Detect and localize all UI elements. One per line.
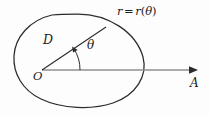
axis-arrow-head-icon [189, 66, 198, 74]
angle-label: θ [87, 39, 94, 51]
curve-equation-equals: = [123, 4, 136, 18]
curve-equation-close-paren: ) [152, 4, 157, 18]
origin-label: O [33, 71, 42, 83]
angle-arc [74, 49, 80, 70]
polar-curve-figure: r=r(θ) D θ O A [0, 0, 210, 116]
curve-equation-label: r=r(θ) [117, 6, 157, 18]
radius-segment-label: D [43, 34, 53, 47]
curve-equation-r: r [117, 4, 123, 18]
figure-drawing-canvas [0, 0, 210, 116]
axis-endpoint-label: A [190, 77, 199, 89]
